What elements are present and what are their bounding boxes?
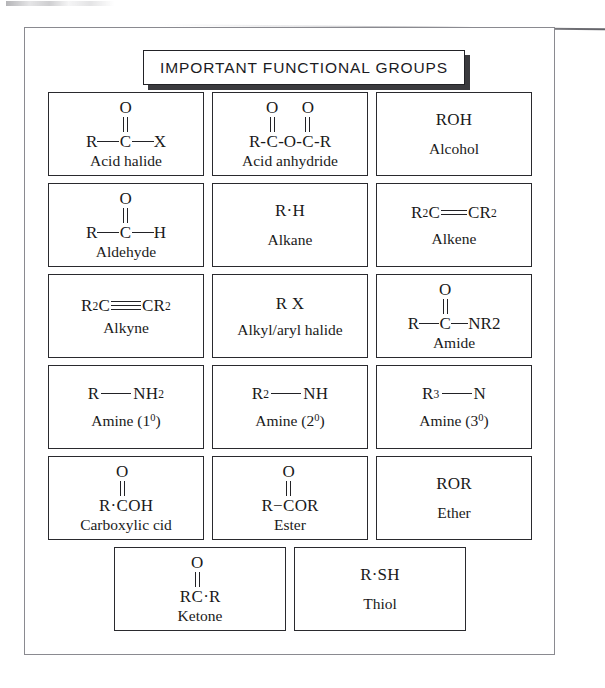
atom-right: N — [474, 384, 486, 404]
grid-row: R O C ·R Ketone R·SH Thiol — [48, 547, 532, 631]
structure-amine-tertiary: R3 N — [422, 384, 486, 404]
atom-carbon: C — [266, 133, 277, 150]
group-cell-acid-anhydride: R- O C -O- O C -R Acid anhydride — [212, 92, 368, 176]
atom-left: R — [180, 588, 191, 605]
group-cell-acid-halide: R O C X Acid halide — [48, 92, 204, 176]
grid-row: R· O C OH Carboxylic cid R− O — [48, 456, 532, 540]
atom-right-subscript: 2 — [165, 300, 171, 312]
carbonyl-group: O C — [283, 463, 295, 514]
double-bond-horizontal — [441, 209, 467, 216]
atom-left: R — [422, 384, 434, 404]
atom-right-carbon: C — [468, 203, 480, 223]
bond-left — [97, 232, 119, 233]
atom-left: R — [411, 203, 423, 223]
group-label: Alcohol — [429, 140, 479, 158]
chain: R− O C OR — [262, 463, 319, 514]
atom-carbon: C — [439, 315, 450, 332]
atom-oxygen: O — [119, 190, 131, 207]
double-bond-vertical — [269, 117, 276, 132]
group-cell-amine-tertiary: R3 N Amine (30) — [376, 365, 532, 449]
atom-left-subscript: 3 — [434, 388, 440, 400]
grid-row: R NH2 Amine (10) R2 NH Amine (20) R3 N A… — [48, 365, 532, 449]
atom-right-subscript: 2 — [491, 207, 497, 219]
atom-left-subscript: 2 — [263, 388, 269, 400]
carbonyl-group-1: O C — [266, 99, 278, 150]
atom-oxygen: O — [266, 99, 278, 116]
atom-right: H — [154, 224, 166, 241]
atom-bridge-oxygen: -O- — [278, 133, 302, 150]
structure-alkyl-aryl-halide: R X — [276, 294, 304, 314]
group-label-tail: ) — [484, 412, 489, 429]
title-box: IMPORTANT FUNCTIONAL GROUPS — [143, 50, 465, 85]
atom-right: -R — [314, 133, 331, 150]
group-label: Amine (10) — [91, 412, 160, 430]
atom-left: R — [252, 384, 264, 404]
group-label-text: Amine (3 — [419, 412, 478, 429]
atom-carbon: C — [302, 133, 313, 150]
group-cell-alkene: R2C CR2 Alkene — [376, 183, 532, 267]
group-label: Ether — [437, 504, 471, 522]
structure-alkene: R2C CR2 — [411, 203, 497, 223]
atom-carbon: C — [117, 497, 128, 514]
atom-right: NH — [303, 384, 328, 404]
structure-amide: R O C NR2 — [408, 281, 501, 332]
carbonyl-group: O C — [191, 554, 203, 605]
group-cell-alcohol: ROH Alcohol — [376, 92, 532, 176]
chain: R O C ·R — [180, 554, 221, 605]
carbonyl-group: O C — [119, 190, 131, 241]
group-cell-ketone: R O C ·R Ketone — [114, 547, 286, 631]
group-cell-carboxylic-acid: R· O C OH Carboxylic cid — [48, 456, 204, 540]
page-title: IMPORTANT FUNCTIONAL GROUPS — [160, 59, 448, 77]
structure-amine-primary: R NH2 — [88, 384, 164, 404]
atom-right: NR2 — [468, 315, 500, 332]
carbonyl-group: O C — [116, 463, 128, 514]
atom-left: R — [408, 315, 419, 332]
structure-ester: R− O C OR — [262, 463, 319, 514]
atom-left-carbon: C — [98, 296, 110, 316]
group-cell-alkyne: R2C CR2 Alkyne — [48, 274, 204, 358]
atom-left: R — [81, 296, 93, 316]
atom-left: R — [86, 133, 97, 150]
structure-alcohol: ROH — [436, 110, 473, 130]
carbonyl-group-2: O C — [302, 99, 314, 150]
grid-row: R2C CR2 Alkyne R X Alkyl/aryl halide R O… — [48, 274, 532, 358]
carbonyl-group: O C — [119, 99, 131, 150]
group-cell-alkane: R·H Alkane — [212, 183, 368, 267]
atom-right: NH — [133, 384, 158, 404]
atom-left: R- — [249, 133, 266, 150]
group-cell-ether: ROR Ether — [376, 456, 532, 540]
structure-acid-halide: R O C X — [86, 99, 166, 150]
double-bond-vertical — [285, 481, 292, 496]
group-label: Ester — [274, 516, 306, 534]
group-cell-aldehyde: R O C H Aldehyde — [48, 183, 204, 267]
atom-right: OR — [295, 497, 319, 514]
atom-right-subscript: 2 — [492, 314, 501, 333]
structure-acid-anhydride: R- O C -O- O C -R — [249, 99, 331, 150]
bond-left — [419, 323, 439, 324]
group-label-tail: ) — [320, 412, 325, 429]
structure-aldehyde: R O C H — [86, 190, 166, 241]
grid-row: R O C X Acid halide R- O — [48, 92, 532, 176]
structure-ether: ROR — [436, 474, 472, 494]
double-bond-vertical — [194, 572, 201, 587]
group-label: Alkene — [432, 230, 477, 248]
group-label: Amide — [433, 334, 475, 352]
chain: R· O C OH — [99, 463, 153, 514]
group-label: Alkane — [268, 231, 313, 249]
functional-groups-grid: R O C X Acid halide R- O — [48, 92, 532, 638]
atom-carbon: C — [120, 133, 131, 150]
carbonyl-group: O C — [439, 281, 451, 332]
group-cell-thiol: R·SH Thiol — [294, 547, 466, 631]
group-label: Amine (30) — [419, 412, 488, 430]
atom-carbon: C — [120, 224, 131, 241]
atom-left: R — [88, 384, 100, 404]
structure-ketone: R O C ·R — [180, 554, 221, 605]
structure-alkyne: R2C CR2 — [81, 296, 171, 316]
atom-left: R− — [262, 497, 283, 514]
double-bond-vertical — [119, 481, 126, 496]
group-cell-amide: R O C NR2 Amide — [376, 274, 532, 358]
atom-left: R· — [99, 497, 116, 514]
atom-oxygen: O — [439, 281, 451, 298]
group-cell-alkyl-aryl-halide: R X Alkyl/aryl halide — [212, 274, 368, 358]
double-bond-vertical — [122, 117, 129, 132]
